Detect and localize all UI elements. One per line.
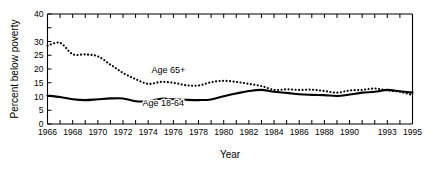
x-axis-tick-label: 1995 <box>403 127 422 137</box>
x-axis-tick-label: 1988 <box>315 127 334 137</box>
x-axis-tick-label: 1990 <box>340 127 359 137</box>
x-axis-tick-label: 1976 <box>164 127 183 137</box>
chart-canvas: 05101520253040 1966196819701972197419761… <box>0 0 438 171</box>
x-axis-title: Year <box>220 149 241 160</box>
x-axis-tick-label: 1968 <box>63 127 82 137</box>
x-axis-tick-label: 1972 <box>114 127 133 137</box>
y-axis-tick-label: 25 <box>34 50 44 60</box>
series-label-2: Age 18-64 <box>143 98 185 108</box>
y-axis-tick-label: 15 <box>34 78 44 88</box>
poverty-trend-chart-figure: 05101520253040 1966196819701972197419761… <box>0 0 438 171</box>
x-axis-tick-label: 1970 <box>88 127 107 137</box>
y-axis-tick-label: 20 <box>34 64 44 74</box>
x-axis-tick-label: 1982 <box>239 127 258 137</box>
x-axis-tick-label: 1984 <box>265 127 284 137</box>
x-axis-tick-label: 1993 <box>378 127 397 137</box>
x-axis-tick-label: 1986 <box>290 127 309 137</box>
chart-background <box>0 0 438 171</box>
x-axis-tick-label: 1978 <box>189 127 208 137</box>
x-axis-tick-label: 1974 <box>139 127 158 137</box>
y-axis-title: Percent below poverty <box>9 20 20 119</box>
x-axis-tick-label: 1966 <box>38 127 57 137</box>
y-axis-tick-label: 40 <box>34 9 44 19</box>
x-axis-tick-label: 1980 <box>214 127 233 137</box>
series-label-1: Age 65+ <box>151 65 185 75</box>
y-axis-tick-label: 10 <box>34 92 44 102</box>
y-axis-tick-label: 5 <box>39 105 44 115</box>
y-axis-tick-label: 30 <box>34 37 44 47</box>
